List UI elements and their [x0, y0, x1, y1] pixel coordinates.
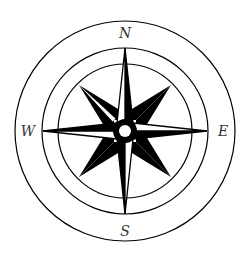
point-north-dark — [125, 48, 133, 131]
center-hole — [119, 125, 131, 137]
label-east: E — [218, 124, 228, 138]
point-north-light — [117, 48, 125, 131]
point-south-dark — [117, 131, 125, 214]
point-west-dark — [43, 123, 125, 131]
point-east-dark — [125, 131, 207, 139]
point-west-light — [43, 131, 125, 139]
point-east-light — [125, 123, 207, 131]
label-west: W — [21, 124, 35, 138]
label-south: S — [120, 224, 130, 238]
label-north: N — [119, 26, 131, 40]
point-south-light — [125, 131, 133, 214]
